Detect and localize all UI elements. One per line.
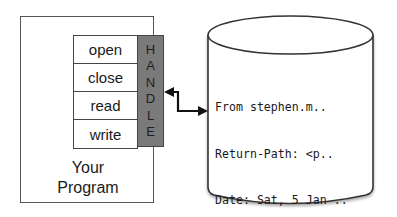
diagram-canvas: open close read write H A N D L E Your P… [0,0,397,217]
file-contents: From stephen.m.. Return-Path: <p.. Date:… [215,69,348,217]
file-line: Date: Sat, 5 Jan .. [215,193,348,209]
cylinder-top [208,16,373,54]
bidirectional-arrow-icon [164,87,208,116]
file-line: From stephen.m.. [215,100,348,116]
file-line: Return-Path: <p.. [215,147,348,163]
